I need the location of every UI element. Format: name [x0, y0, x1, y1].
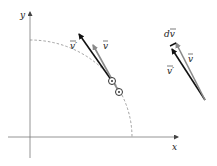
- label-v-left: v: [103, 41, 108, 51]
- vector-v-right: [176, 43, 205, 100]
- x-axis-label: x: [172, 142, 177, 152]
- diagram: x y v′ v dv v v′: [0, 0, 217, 166]
- y-axis-label: y: [19, 10, 26, 20]
- point-1-dot: [111, 80, 113, 82]
- label-v-prime-right: v′: [167, 66, 174, 76]
- label-v-prime-left: v′: [70, 41, 77, 51]
- vector-dv: [170, 43, 176, 46]
- point-2-dot: [118, 91, 120, 93]
- label-v-right: v: [188, 54, 193, 64]
- vector-v: [93, 45, 119, 92]
- label-dv: dv: [164, 29, 175, 39]
